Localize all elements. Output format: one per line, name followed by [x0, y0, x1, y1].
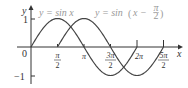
x-tick-label-pi-half-num: π [55, 51, 60, 60]
svg-text:x −: x − [132, 7, 147, 18]
svg-text:2: 2 [154, 10, 159, 21]
y-tick-label-neg1: −1 [14, 71, 25, 82]
legend-sin-shifted: y = sin ( x − π 2 ) [94, 2, 163, 21]
chart: y x 0 1 −1 π 2 π 3π 2 2π 5π 2 y = sin x … [0, 0, 188, 88]
x-tick-label-5pi-half-num: 5π [159, 51, 168, 60]
x-tick-label-3pi-half-den: 2 [109, 61, 113, 70]
origin-label: 0 [22, 48, 27, 59]
svg-text:y = sin: y = sin [94, 7, 123, 18]
svg-text:): ) [160, 8, 163, 20]
x-tick-label-pi-half-den: 2 [56, 61, 60, 70]
x-tick-label-pi: π [82, 52, 87, 61]
legend-sin-x: y = sin x [38, 7, 74, 18]
svg-text:(: ( [128, 8, 132, 20]
x-tick-label-5pi-half-den: 2 [162, 61, 166, 70]
y-axis-arrow-icon [29, 5, 34, 10]
x-tick-label-2pi: 2π [135, 52, 144, 61]
y-tick-label-1: 1 [23, 14, 28, 25]
x-tick-label-3pi-half-num: 3π [105, 51, 115, 60]
x-axis-label: x [176, 48, 182, 59]
